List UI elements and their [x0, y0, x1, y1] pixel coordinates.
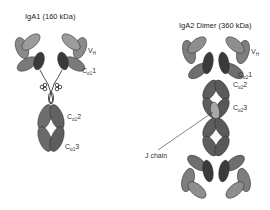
iga1-vh-sub: H	[93, 51, 96, 56]
iga2-bottom-right-fab	[217, 152, 253, 201]
iga2-top-left-fab	[180, 34, 215, 82]
iga1-fc	[35, 103, 67, 154]
iga1-left-fab	[13, 31, 47, 75]
iga2-ch1-num: 1	[248, 71, 252, 78]
iga1-molecule	[13, 31, 90, 154]
iga2-dimer-molecule	[158, 34, 253, 202]
iga1-ch2-label: Cα12	[67, 113, 81, 122]
iga1-ch1-num: 1	[92, 67, 96, 74]
iga2-ch3-label: Cα23	[233, 104, 247, 113]
iga2-vh-label: VH	[251, 48, 259, 57]
iga1-hinge	[40, 70, 62, 104]
iga2-vh-sub: H	[256, 52, 259, 57]
iga2-bottom-fc	[200, 116, 233, 159]
diagram-graphics	[0, 0, 270, 210]
iga1-ch3-num: 3	[75, 143, 79, 150]
iga2-ch1-label: Cα21	[238, 71, 252, 80]
iga1-ch2-num: 2	[77, 113, 81, 120]
iga2-ch2-label: Cα22	[233, 81, 247, 90]
iga1-ch1-label: Cα11	[82, 67, 96, 76]
iga2-ch2-num: 2	[243, 81, 247, 88]
iga1-title: IgA1 (160 kDa)	[25, 13, 75, 21]
antibody-diagram: IgA1 (160 kDa) VH Cα11 Cα12 Cα13 IgA2 Di…	[0, 0, 270, 210]
iga2-bottom-left-fab	[179, 152, 215, 201]
iga2-ch3-num: 3	[243, 104, 247, 111]
iga2-title: IgA2 Dimer (360 kDa)	[179, 22, 252, 30]
iga1-vh-label: VH	[88, 47, 96, 56]
iga1-ch3-label: Cα13	[65, 143, 79, 152]
j-chain-label: J chain	[145, 152, 167, 159]
